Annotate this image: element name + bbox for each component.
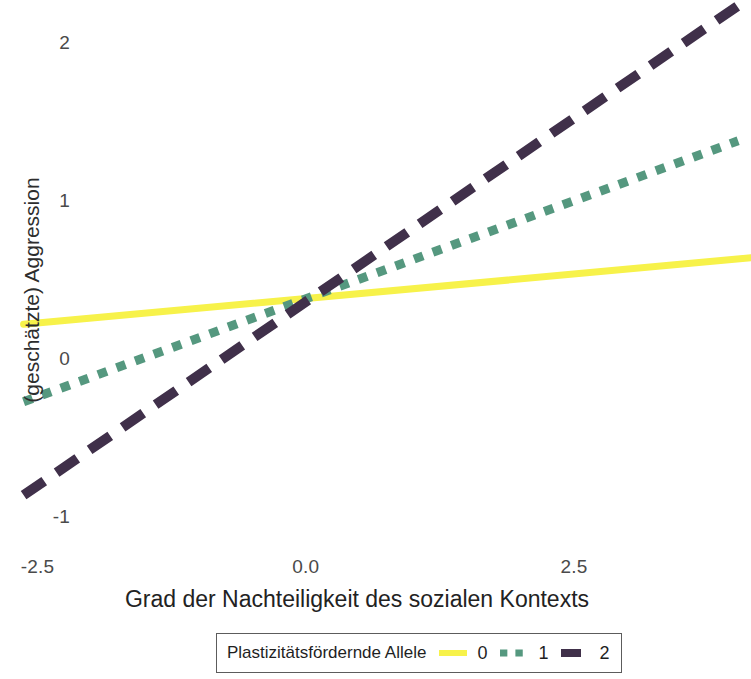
legend-entry-1[interactable]: 1 [499,643,548,664]
series-line-2 [24,0,751,495]
legend-title: Plastizitätsfördernde Allele [227,643,426,663]
x-axis-ticks: -2.50.02.5 [0,556,751,590]
y-axis-title-wrap: (geschätzte) Aggression [0,0,30,560]
series-line-0 [24,258,751,324]
x-tick-label: 0.0 [292,556,319,578]
plot-area [0,0,751,560]
legend-swatch-0 [438,645,468,661]
legend-entry-0[interactable]: 0 [438,643,487,664]
y-axis-title: (geschätzte) Aggression [20,30,44,550]
legend-entry-2[interactable]: 2 [560,643,609,664]
legend-swatch-1 [499,645,529,661]
plot-lines-svg [0,0,751,560]
legend: Plastizitätsfördernde Allele 012 [216,633,622,673]
regression-line-chart: -1012 -2.50.02.5 (geschätzte) Aggression… [0,0,751,679]
legend-label-1: 1 [538,643,548,664]
x-axis-title: Grad der Nachteiligkeit des sozialen Kon… [0,586,714,613]
legend-swatch-2 [560,645,590,661]
legend-label-0: 0 [477,643,487,664]
x-tick-label: 2.5 [560,556,587,578]
legend-entries: 012 [438,643,609,664]
legend-label-2: 2 [599,643,609,664]
